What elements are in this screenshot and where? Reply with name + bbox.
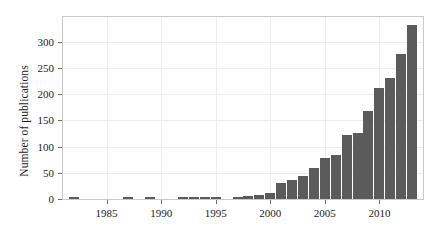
y-tick-mark: [58, 42, 62, 43]
y-tick-label: 150: [18, 114, 54, 126]
x-tick-label: 1985: [96, 207, 118, 219]
x-tick-mark: [107, 200, 108, 204]
bar: [331, 155, 341, 199]
bar: [254, 195, 264, 199]
bar: [309, 168, 319, 199]
y-tick-label: 300: [18, 36, 54, 48]
bar: [178, 197, 188, 199]
publications-bar-chart-figure: Number of publications 05010015020025030…: [0, 0, 447, 242]
y-tick-label: 250: [18, 62, 54, 74]
plot-area: [62, 16, 424, 200]
bar: [211, 197, 221, 199]
bar: [123, 197, 133, 199]
bar: [353, 133, 363, 199]
y-tick-mark: [58, 199, 62, 200]
gridline-horizontal: [63, 42, 423, 43]
x-tick-label: 2010: [368, 207, 390, 219]
y-tick-label: 50: [18, 167, 54, 179]
y-tick-mark: [58, 68, 62, 69]
x-tick-mark: [216, 200, 217, 204]
gridline-vertical: [107, 17, 108, 199]
x-tick-label: 1995: [205, 207, 227, 219]
y-tick-mark: [58, 94, 62, 95]
bar: [298, 176, 308, 199]
bar: [189, 197, 199, 199]
x-tick-mark: [379, 200, 380, 204]
plot-inner: [63, 17, 423, 199]
y-tick-label: 200: [18, 88, 54, 100]
bar: [145, 197, 155, 199]
y-tick-mark: [58, 147, 62, 148]
bar: [265, 193, 275, 199]
x-tick-mark: [270, 200, 271, 204]
bar: [69, 197, 79, 199]
gridline-horizontal: [63, 68, 423, 69]
bar: [200, 197, 210, 199]
bar: [243, 196, 253, 199]
gridline-vertical: [270, 17, 271, 199]
x-tick-label: 2000: [259, 207, 281, 219]
x-tick-mark: [161, 200, 162, 204]
x-tick-mark: [325, 200, 326, 204]
x-tick-label: 1990: [150, 207, 172, 219]
y-tick-mark: [58, 120, 62, 121]
bar: [385, 78, 395, 199]
gridline-vertical: [161, 17, 162, 199]
bar: [233, 197, 243, 199]
y-tick-label: 0: [18, 193, 54, 205]
bar: [287, 180, 297, 199]
bar: [320, 158, 330, 199]
gridline-vertical: [216, 17, 217, 199]
x-tick-label: 2005: [314, 207, 336, 219]
bar: [407, 25, 417, 199]
y-tick-mark: [58, 173, 62, 174]
gridline-horizontal: [63, 94, 423, 95]
bar: [342, 135, 352, 200]
bar: [276, 183, 286, 199]
bar: [363, 111, 373, 199]
bar: [396, 54, 406, 199]
y-tick-label: 100: [18, 141, 54, 153]
bar: [374, 88, 384, 199]
